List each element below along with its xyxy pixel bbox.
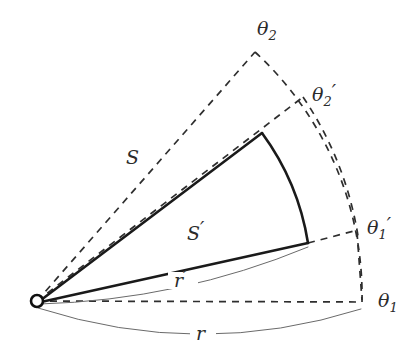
sector-outer-arc <box>262 133 308 243</box>
ray-theta1-prime-dashed <box>308 230 358 243</box>
figure-canvas: θ2 θ2′ θ1′ θ1 S S′ r′ r <box>0 0 420 351</box>
origin-point <box>31 295 43 307</box>
label-theta2-prime: θ2′ <box>312 80 337 109</box>
label-theta1-prime: θ1′ <box>367 213 392 242</box>
label-group: θ2 θ2′ θ1′ θ1 S S′ r′ r <box>126 17 398 344</box>
label-theta2: θ2 <box>257 17 277 43</box>
sector-diagram-svg: θ2 θ2′ θ1′ θ1 S S′ r′ r <box>0 0 420 351</box>
ray-theta2-dashed <box>37 52 255 301</box>
label-S: S <box>126 146 139 168</box>
label-theta1: θ1 <box>378 289 398 315</box>
ray-theta2-prime-dashed <box>37 97 303 301</box>
inner-sector-dashed-group <box>37 97 362 301</box>
outer-arc-dashed <box>255 52 362 302</box>
theta2-prime-arc-dashed <box>303 97 358 236</box>
theta1-prime-drop-dashed <box>357 232 362 300</box>
label-S-prime: S′ <box>187 217 205 244</box>
